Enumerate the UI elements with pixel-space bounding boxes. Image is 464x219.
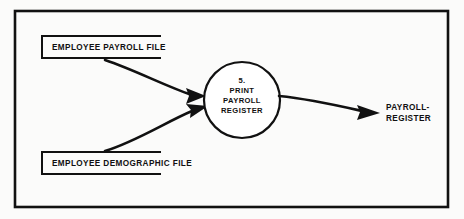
dfd-diagram-canvas: EMPLOYEE PAYROLL FILE EMPLOYEE DEMOGRAPH… [0,0,464,219]
process-line-2: PAYROLL [223,96,261,105]
output-payroll-register-line-2: REGISTER [386,114,431,123]
process-line-number: 5. [238,76,245,85]
flow-demographic-curve [105,111,192,151]
output-payroll-register-line-1: PAYROLL- [386,103,430,112]
flow-output-line [279,96,362,111]
process-print-payroll-register[interactable]: 5. PRINT PAYROLL REGISTER [204,62,280,138]
flow-process-to-payroll-register[interactable] [279,96,380,120]
flow-output-arrowhead [357,105,380,120]
flow-demographic-file-to-process[interactable] [105,104,208,151]
flow-payroll-file-to-process[interactable] [105,60,206,104]
flow-payroll-curve [105,60,192,95]
data-store-payroll-label: EMPLOYEE PAYROLL FILE [52,43,166,52]
output-payroll-register: PAYROLL- REGISTER [386,103,431,123]
process-line-3: REGISTER [221,106,263,115]
data-store-employee-demographic-file[interactable]: EMPLOYEE DEMOGRAPHIC FILE [42,152,192,174]
data-store-demographic-label: EMPLOYEE DEMOGRAPHIC FILE [52,159,192,168]
process-line-1: PRINT [230,86,255,95]
data-store-employee-payroll-file[interactable]: EMPLOYEE PAYROLL FILE [42,36,166,58]
dfd-svg-surface: EMPLOYEE PAYROLL FILE EMPLOYEE DEMOGRAPH… [0,0,464,219]
